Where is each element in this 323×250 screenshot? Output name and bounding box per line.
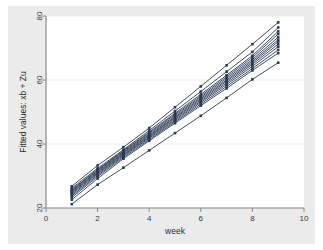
x-tick-label: 8 [250,214,255,223]
data-point-marker [71,198,74,201]
data-point-marker [251,43,254,46]
y-axis-title: Fitted values: xb + Zu [18,71,28,153]
data-point-marker [225,64,228,67]
fitted-values-line-chart: 204060800246810 week Fitted values: xb +… [0,0,323,250]
data-point-marker [174,122,177,125]
data-point-marker [251,78,254,81]
data-point-marker [96,177,99,180]
y-tick-label: 60 [35,75,44,84]
data-point-marker [277,30,280,33]
data-point-marker [200,104,203,107]
data-point-marker [277,40,280,43]
data-point-marker [122,146,125,149]
x-tick-label: 2 [95,214,100,223]
data-point-marker [225,97,228,100]
data-point-marker [148,149,151,152]
x-tick-label: 6 [199,214,204,223]
y-tick-label: 80 [35,11,44,20]
data-point-marker [277,26,280,29]
data-point-marker [200,85,203,88]
data-point-marker [148,140,151,143]
data-point-marker [148,127,151,130]
data-point-marker [96,164,99,167]
data-point-marker [277,36,280,39]
data-point-marker [277,49,280,52]
x-tick-label: 10 [300,214,309,223]
data-point-marker [122,166,125,169]
data-point-marker [174,106,177,109]
data-point-marker [71,196,74,199]
data-point-marker [122,157,125,160]
y-tick-label: 20 [35,203,44,212]
data-point-marker [277,43,280,46]
x-tick-label: 0 [44,214,49,223]
data-point-marker [200,115,203,118]
figure-container: 204060800246810 week Fitted values: xb +… [0,0,323,250]
y-tick-label: 40 [35,139,44,148]
data-point-marker [277,33,280,36]
data-point-marker [277,61,280,64]
data-point-marker [96,183,99,186]
x-tick-label: 4 [147,214,152,223]
x-axis-title: week [164,226,186,236]
data-point-marker [71,203,74,206]
data-point-marker [251,69,254,72]
data-point-marker [174,110,177,113]
data-point-marker [225,70,228,73]
data-point-marker [251,51,254,54]
data-point-marker [277,45,280,48]
data-point-marker [251,65,254,68]
data-point-marker [277,52,280,55]
data-point-marker [174,132,177,135]
data-point-marker [200,90,203,93]
data-point-marker [277,21,280,24]
data-point-marker [225,87,228,90]
